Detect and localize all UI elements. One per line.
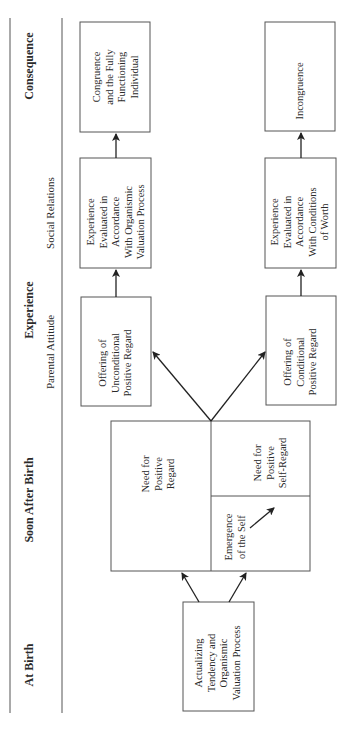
header-at-birth: At Birth <box>22 644 36 687</box>
congruence-label: Congruenceand the FullyFunctioningIndivi… <box>91 49 141 104</box>
need-positive-self-regard-label: Need forPositiveSelf-Regard <box>252 438 290 489</box>
eval-conditions-label: ExperienceEvaluated inAccordanceWith Con… <box>269 187 332 256</box>
eval-organismic-label: ExperienceEvaluated inAccordanceWith Org… <box>85 185 148 260</box>
need-positive-regard-label: Need forPositiveRegard <box>140 455 178 492</box>
emergence-of-self-label: Emergenceof the Self <box>223 513 248 560</box>
subheader-social-relations: Social Relations <box>44 177 57 249</box>
header-experience: Experience <box>22 281 36 338</box>
subheader-parental-attitude: Parental Attitude <box>44 315 57 389</box>
unconditional-label: Offering ofUnconditionalPositive Regard <box>97 330 135 397</box>
header-consequence: Consequence <box>22 32 36 99</box>
conditional-label: Offering ofConditionalPositive Regard <box>282 329 320 396</box>
header-soon-after-birth: Soon After Birth <box>22 457 36 542</box>
incongruence-label: Incongruence <box>294 62 307 119</box>
actualizing-label: ActualizingTendency andOrganismicValuati… <box>193 626 243 701</box>
